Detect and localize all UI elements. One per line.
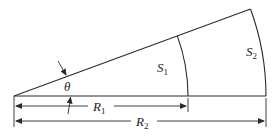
theta-label: θ (64, 79, 71, 94)
sector-diagram: θ R1 R2 S1 S2 (0, 0, 279, 136)
arc-s1 (177, 36, 188, 96)
s1-label: S1 (157, 60, 168, 77)
r2-label: R2 (135, 114, 148, 131)
upper-radius-line (14, 9, 251, 96)
s2-label: S2 (246, 44, 257, 61)
theta-arrow-upper (58, 61, 66, 75)
r1-label: R1 (92, 99, 105, 116)
